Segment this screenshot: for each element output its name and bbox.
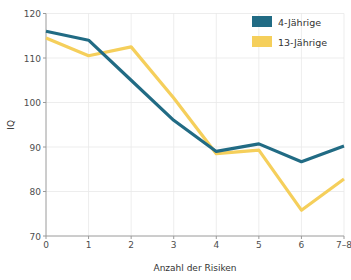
legend-swatch — [252, 16, 272, 27]
legend-label: 4-Jährige — [278, 17, 321, 28]
legend: 4-Jährige13-Jährige — [252, 16, 327, 48]
y-axis-title: IQ — [6, 120, 16, 130]
x-tick-label: 5 — [256, 240, 262, 250]
y-tick-label: 80 — [30, 187, 42, 197]
y-tick-label: 110 — [24, 54, 41, 64]
x-tick-labels: 01234567–8 — [43, 236, 351, 250]
line-chart: 708090100110120 01234567–8 4-Jährige13-J… — [0, 0, 351, 280]
legend-swatch — [252, 36, 272, 47]
x-tick-label: 7–8 — [336, 240, 351, 250]
y-tick-label: 70 — [30, 232, 42, 242]
y-tick-labels: 708090100110120 — [24, 9, 46, 242]
y-tick-label: 90 — [30, 143, 42, 153]
x-tick-label: 2 — [128, 240, 134, 250]
y-tick-label: 120 — [24, 9, 41, 19]
legend-label: 13-Jährige — [278, 37, 327, 48]
series-line-13-j-hrige — [46, 38, 344, 210]
x-tick-label: 1 — [86, 240, 92, 250]
y-tick-label: 100 — [24, 98, 41, 108]
x-tick-label: 3 — [171, 240, 177, 250]
x-tick-label: 0 — [43, 240, 49, 250]
chart-container: 708090100110120 01234567–8 4-Jährige13-J… — [0, 0, 351, 280]
x-axis-title: Anzahl der Risiken — [153, 263, 236, 273]
x-tick-label: 4 — [213, 240, 219, 250]
series-line-4-j-hrige — [46, 31, 344, 161]
x-tick-label: 6 — [299, 240, 305, 250]
